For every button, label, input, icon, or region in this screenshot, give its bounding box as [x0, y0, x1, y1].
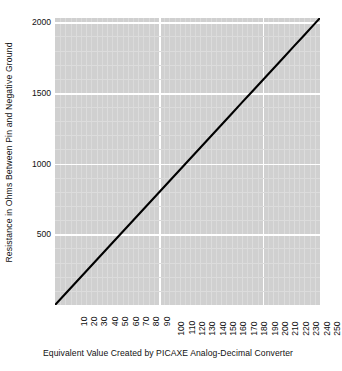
x-axis-tick-label: 170	[249, 321, 259, 335]
x-axis-tick-label: 100	[176, 321, 186, 335]
y-axis-tick-labels: 500100015002000	[18, 0, 51, 371]
x-axis-tick-label: 150	[228, 321, 238, 335]
x-axis-tick-label: 160	[239, 321, 249, 335]
x-axis-tick-label: 250	[332, 321, 342, 335]
x-axis-tick-label: 10	[78, 317, 88, 327]
x-axis-tick-label: 190	[270, 321, 280, 335]
x-axis-tick-label: 20	[89, 317, 99, 327]
x-axis-title: Equivalent Value Created by PICAXE Analo…	[0, 348, 336, 358]
x-axis-tick-label: 130	[208, 321, 218, 335]
x-axis-tick-label: 140	[218, 321, 228, 335]
x-axis-tick-label: 220	[301, 321, 311, 335]
x-axis-tick-label: 200	[280, 321, 290, 335]
data-series-line	[55, 18, 320, 305]
x-axis-tick-label: 80	[151, 317, 161, 327]
x-axis-tick-label: 30	[99, 317, 109, 327]
x-axis-tick-label: 90	[161, 317, 171, 327]
x-axis-tick-label: 240	[322, 321, 332, 335]
x-axis-tick-label: 40	[109, 317, 119, 327]
x-axis-tick-label: 210	[291, 321, 301, 335]
x-axis-tick-label: 230	[312, 321, 322, 335]
x-axis-tick-label: 180	[260, 321, 270, 335]
y-axis-tick-label: 500	[18, 229, 51, 239]
x-axis-tick-label: 120	[197, 321, 207, 335]
x-axis-tick-label: 70	[141, 317, 151, 327]
x-axis-tick-label: 60	[130, 317, 140, 327]
y-axis-title: Resistance in Ohms Between Pin and Negat…	[0, 0, 18, 305]
x-axis-tick-label: 110	[186, 321, 196, 335]
x-axis-tick-label: 50	[120, 317, 130, 327]
plot-panel	[55, 18, 320, 305]
x-axis-tick-labels: 1020304050607080901001101201301401501601…	[55, 305, 320, 345]
y-axis-tick-label: 1500	[18, 88, 51, 98]
y-axis-tick-label: 1000	[18, 159, 51, 169]
y-axis-tick-label: 2000	[18, 17, 51, 27]
